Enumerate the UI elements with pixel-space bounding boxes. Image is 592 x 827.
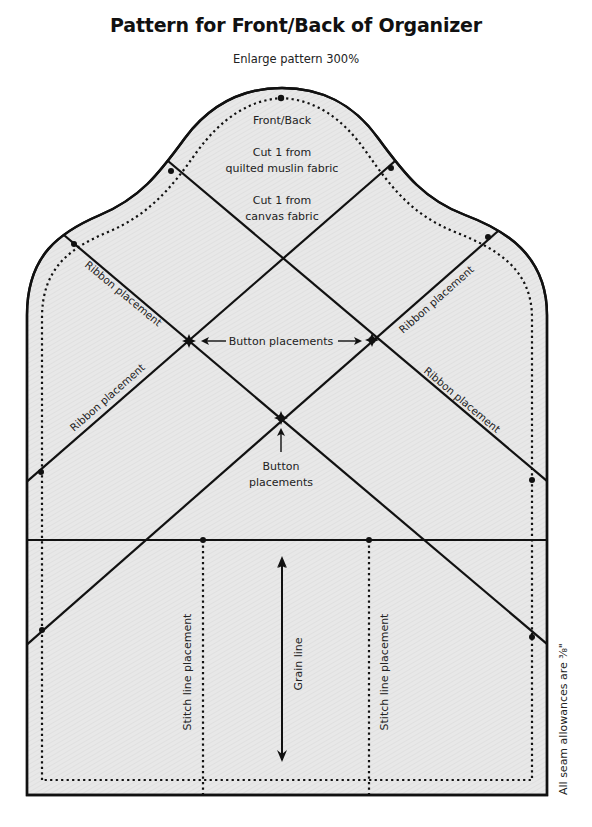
stitch-line-right-label: Stitch line placement	[378, 613, 391, 731]
seam-allowance-footnote: All seam allowances are ³⁄₈"	[557, 643, 570, 795]
pattern-diagram: Front/Back Cut 1 from quilted muslin fab…	[0, 0, 592, 827]
cut-instruction-1-line1: Cut 1 from	[253, 146, 312, 159]
grain-line-label: Grain line	[292, 637, 305, 690]
stitch-line-left-label: Stitch line placement	[181, 613, 194, 731]
cut-instruction-2-line1: Cut 1 from	[253, 194, 312, 207]
button-placements-label: Button placements	[229, 335, 334, 348]
button-placements-lower-line1: Button	[263, 460, 300, 473]
cut-instruction-2-line2: canvas fabric	[245, 210, 318, 223]
piece-name-label: Front/Back	[253, 114, 312, 127]
cut-instruction-1-line2: quilted muslin fabric	[226, 162, 339, 175]
button-placements-lower-line2: placements	[249, 476, 313, 489]
